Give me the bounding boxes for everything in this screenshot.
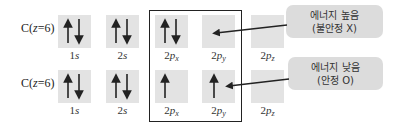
electron-pair-2s-row1-icon [116, 19, 127, 43]
electron-pair-2px-row1-icon [165, 19, 176, 43]
pointer-arrow-low-energy-icon [229, 79, 289, 86]
pointer-arrow-high-energy-icon [216, 25, 287, 33]
electron-pair-1s-row2-icon [68, 74, 79, 98]
electron-pair-2s-row2-icon [116, 74, 127, 98]
electron-pair-1s-row1-icon [68, 19, 79, 43]
diagram-overlay [0, 0, 401, 131]
